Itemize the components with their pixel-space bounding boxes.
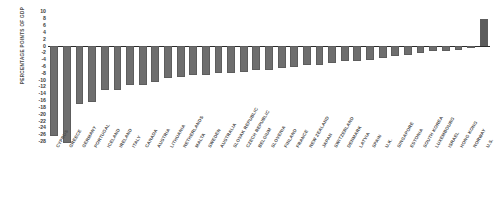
plot-area [48, 12, 490, 145]
bar [50, 46, 58, 136]
bar [278, 46, 286, 68]
y-axis-tick: -16 [39, 98, 47, 103]
y-axis-tick: -26 [39, 132, 47, 137]
y-axis-tick: -6 [41, 64, 46, 69]
y-axis-tick: -2 [41, 50, 46, 55]
y-axis-title: PERCENTAGE POINTS OF GDP [20, 0, 25, 101]
y-axis-tick: 0 [43, 44, 46, 49]
y-axis-tick: -8 [41, 71, 46, 76]
y-axis-tick: -24 [39, 125, 47, 130]
y-axis-tick: -22 [39, 119, 47, 124]
y-axis-tick: 6 [43, 23, 46, 28]
bar [88, 46, 96, 102]
bar [316, 46, 324, 65]
bar [76, 46, 84, 104]
y-axis-tick: -12 [39, 84, 47, 89]
y-axis-tick: -28 [39, 139, 47, 144]
bar [303, 46, 311, 65]
bar [391, 46, 399, 56]
bar [114, 46, 122, 90]
y-axis-tick: -14 [39, 91, 47, 96]
y-axis-tick: -20 [39, 112, 47, 117]
y-axis-tick: 4 [43, 30, 46, 35]
bar [101, 46, 109, 90]
bar [139, 46, 147, 85]
bar [177, 46, 185, 77]
bar [467, 46, 475, 48]
bar [379, 46, 387, 58]
x-axis-category-labels: CYPRUSGREECEGERMANYPORTUGALICELANDIRELAN… [48, 146, 495, 205]
y-axis-tick: -10 [39, 78, 47, 83]
bar [126, 46, 134, 85]
bar [341, 46, 349, 61]
bar [417, 46, 425, 53]
bar [404, 46, 412, 55]
bar [252, 46, 260, 70]
bar [429, 46, 437, 51]
bar [151, 46, 159, 82]
bar [164, 46, 172, 78]
bar [328, 46, 336, 63]
y-axis-tick: 10 [40, 9, 46, 14]
bar [442, 46, 450, 51]
y-axis-tick: 8 [43, 16, 46, 21]
bar [202, 46, 210, 75]
bar [353, 46, 361, 61]
chart-page: PERCENTAGE POINTS OF GDP 1086420-2-4-6-8… [0, 0, 495, 205]
y-axis-tick: -18 [39, 105, 47, 110]
bar [227, 46, 235, 73]
bar [455, 46, 463, 49]
bar [480, 19, 488, 46]
y-axis-tick: 2 [43, 37, 46, 42]
bar [189, 46, 197, 75]
bar [366, 46, 374, 60]
bar [215, 46, 223, 73]
bar [290, 46, 298, 66]
bar [240, 46, 248, 72]
y-axis-tick-labels: 1086420-2-4-6-8-10-12-14-16-18-20-22-24-… [30, 12, 46, 145]
bar [265, 46, 273, 70]
y-axis-tick: -4 [41, 57, 46, 62]
